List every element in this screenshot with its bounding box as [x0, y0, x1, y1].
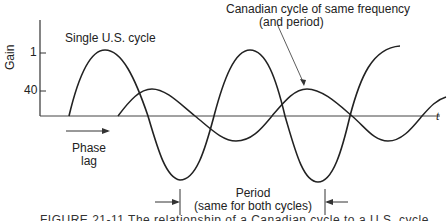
canadian-pointer-arrowhead — [300, 79, 306, 86]
period-right-arrowhead — [325, 199, 333, 205]
y-tick-label-1: 1 — [30, 46, 37, 59]
period-label-line2: (same for both cycles) — [192, 200, 314, 213]
phase-label-line2: lag — [64, 155, 114, 168]
phase-lag-label: Phase lag — [64, 142, 114, 168]
phase-lag-arrowhead — [102, 128, 110, 134]
canadian-cycle-label-line2: (and period) — [259, 16, 324, 29]
y-tick-label-40: 40 — [24, 84, 37, 97]
canadian-pointer-line — [278, 26, 304, 84]
x-axis-label: t — [436, 110, 439, 123]
figure-caption: FIGURE 21-11 The relationship of a Canad… — [40, 213, 429, 221]
canadian-cycle-curve — [118, 89, 446, 141]
y-axis-label: Gain — [3, 45, 17, 70]
period-left-arrowhead — [172, 199, 180, 205]
us-cycle-label: Single U.S. cycle — [65, 32, 156, 45]
period-label: Period (same for both cycles) — [192, 187, 314, 213]
